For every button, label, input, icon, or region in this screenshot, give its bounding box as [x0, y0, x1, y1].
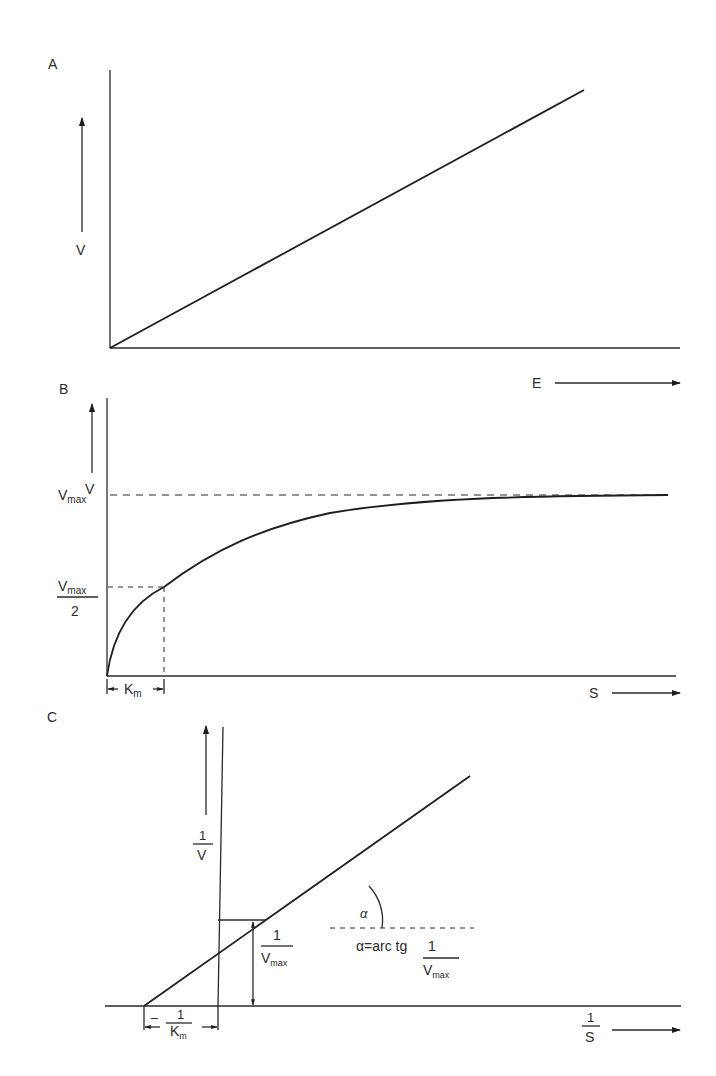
half-vmax-denominator: 2: [71, 603, 79, 619]
michaelis-menten-figure: A V E B V Vmax Vmax 2 Km S: [0, 0, 716, 1076]
x-intercept-sign: −: [150, 1010, 158, 1026]
panel-b-y-label: V: [85, 481, 95, 497]
km-label: Km: [124, 681, 142, 699]
x-intercept-num: 1: [177, 1007, 184, 1022]
panel-a-y-label: V: [76, 242, 86, 258]
panel-b: B V Vmax Vmax 2 Km S: [57, 381, 680, 701]
panel-a-x-label: E: [532, 375, 541, 391]
panel-c-y-label-den: V: [197, 847, 207, 863]
panel-a: A V E: [48, 56, 680, 391]
intercept-den: Vmax: [261, 950, 288, 968]
panel-c-x-label-den: S: [585, 1029, 594, 1045]
panel-b-label: B: [59, 381, 68, 397]
panel-a-linear-line: [110, 90, 584, 348]
saturation-curve: [107, 495, 668, 676]
panel-c-label: C: [47, 709, 57, 725]
alpha-arc: [369, 886, 383, 928]
panel-c: C 1 V α α=arc tg 1 Vmax 1 Vmax − 1 Km: [47, 709, 681, 1045]
panel-a-label: A: [48, 56, 58, 72]
half-vmax-label: Vmax: [58, 578, 86, 596]
panel-c-y-axis: [218, 727, 223, 1006]
x-intercept-den: Km: [170, 1023, 187, 1041]
alpha-symbol: α: [360, 906, 368, 921]
slope-equation: α=arc tg: [356, 938, 407, 954]
panel-c-x-label-num: 1: [587, 1010, 594, 1025]
panel-b-x-label: S: [589, 685, 598, 701]
intercept-num: 1: [273, 927, 281, 943]
vmax-label: Vmax: [58, 487, 86, 505]
lineweaver-burk-line: [144, 776, 470, 1006]
panel-c-y-label-num: 1: [199, 828, 206, 843]
slope-den: Vmax: [423, 962, 450, 980]
slope-num: 1: [428, 938, 436, 954]
